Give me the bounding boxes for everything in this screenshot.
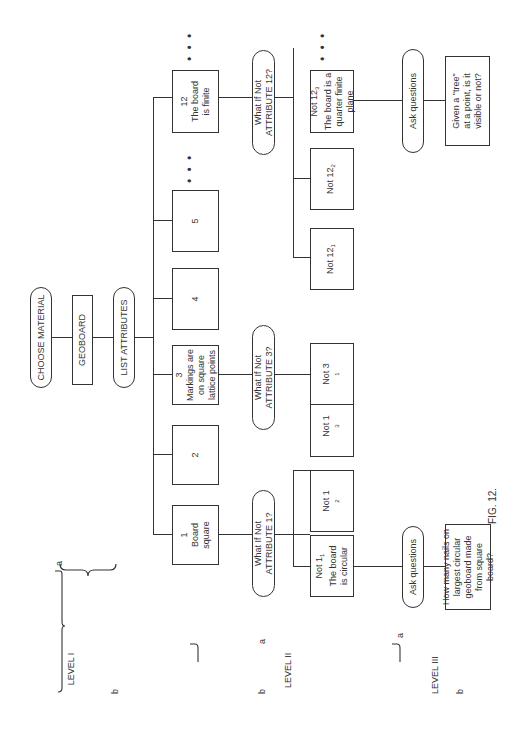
connector (275, 534, 293, 535)
connector (135, 337, 153, 338)
connector (219, 534, 252, 535)
connector (275, 97, 293, 98)
ellipsis: • • • (318, 32, 328, 61)
flowchart-canvas: CHOOSE MATERIAL GEOBOARD LIST ATTRIBUTES… (0, 0, 525, 754)
connector (52, 337, 72, 338)
level-1-label: LEVEL I (66, 644, 76, 694)
level-2-a: a (257, 639, 267, 644)
what-if-not-attribute-3: What If Not ATTRIBUTE 3? (252, 325, 275, 430)
figure-caption: FIG. 12. (487, 488, 498, 524)
not-12-1-box: Not 121 (310, 228, 354, 290)
connector (153, 454, 172, 455)
level-2-b: b (257, 689, 267, 694)
attribute-5-box: 5 (172, 190, 219, 252)
connector (293, 257, 310, 258)
list-attributes-node: LIST ATTRIBUTES (113, 287, 135, 388)
attribute-4-box: 4 (172, 268, 219, 330)
connector (153, 534, 172, 535)
connector (219, 374, 252, 375)
not-3-1-box: Not 3 1 (310, 343, 354, 405)
level-3-b: b (455, 689, 465, 694)
level-braces (0, 554, 525, 754)
not-12-3-box: Not 123 The board is a quarter finite pl… (310, 70, 354, 133)
level-2-label: LEVEL II (283, 653, 293, 688)
attribute-3-box: 3 Markings are on square lattice points (172, 345, 219, 405)
connector (93, 337, 113, 338)
ellipsis: • • • (185, 154, 195, 183)
attribute-spine (153, 97, 154, 535)
not-1-2-box: Not 1 2 (310, 470, 354, 532)
attribute-2-box: 2 (172, 425, 219, 485)
attribute-12-box: 12 The board is finite (172, 70, 219, 133)
connector (153, 374, 172, 375)
connector (153, 220, 172, 221)
connector (354, 100, 402, 101)
connector (219, 97, 252, 98)
choose-material-node: CHOOSE MATERIAL (30, 287, 52, 388)
connector (424, 100, 445, 101)
branch-line-12 (293, 48, 294, 258)
connector (153, 97, 172, 98)
geoboard-node: GEOBOARD (72, 295, 93, 385)
what-if-not-attribute-12: What If Not ATTRIBUTE 12? (252, 50, 275, 155)
ellipsis: • • • (185, 32, 195, 61)
ask-questions-12: Ask questions (402, 49, 424, 153)
level-1-a: a (54, 561, 64, 566)
not-12-2-box: Not 122 (310, 148, 354, 210)
level-1-b: b (110, 689, 120, 694)
connector (293, 534, 310, 535)
level-3-a: a (395, 633, 405, 638)
connector (153, 298, 172, 299)
connector (275, 374, 310, 375)
connector (293, 470, 310, 471)
connector (293, 178, 310, 179)
question-12-box: Given a "tree" at a point, is it visible… (445, 56, 490, 146)
level-3-label: LEVEL III (430, 656, 440, 694)
branch-line-1 (293, 471, 294, 567)
